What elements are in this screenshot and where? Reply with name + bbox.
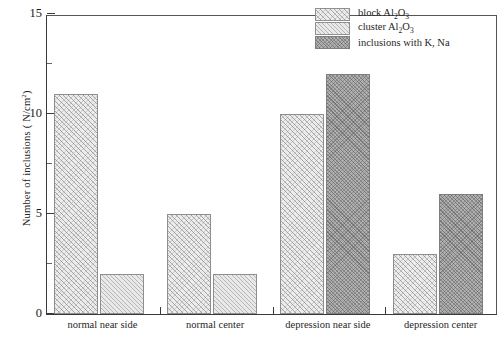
y-axis-tick-label: 15 (30, 6, 43, 21)
x-axis-category-label: depression center (404, 319, 477, 330)
x-axis-tick (160, 307, 161, 314)
x-axis-category-label: depression near side (285, 319, 370, 330)
bar (54, 94, 98, 314)
x-axis-tick (385, 307, 386, 314)
legend-item-label: cluster Al2O3 (358, 21, 414, 35)
y-axis-title: Number of inclusions ( N/cm2) (20, 38, 33, 278)
x-axis-category-label: normal near side (67, 319, 137, 330)
y-axis-title-superscript: 2 (20, 94, 28, 98)
legend-swatch-icon (315, 22, 350, 35)
chart-legend: block Al2O3cluster Al2O3inclusions with … (315, 7, 495, 49)
legend-item[interactable]: block Al2O3 (315, 7, 495, 21)
legend-item-label: inclusions with K, Na (358, 37, 450, 48)
y-axis-tick-minor (47, 263, 52, 264)
bar (213, 274, 257, 314)
y-axis-tick-label: 5 (36, 206, 42, 221)
y-axis-tick-major: 15 (47, 13, 55, 14)
y-axis-tick-minor (47, 163, 52, 164)
bar (280, 114, 324, 314)
y-axis-tick-minor (47, 63, 52, 64)
y-axis-tick-label: 0 (36, 306, 42, 321)
legend-item-label: block Al2O3 (358, 7, 409, 21)
legend-item[interactable]: inclusions with K, Na (315, 35, 495, 49)
x-axis-tick (273, 307, 274, 314)
y-axis-tick-label: 10 (30, 106, 43, 121)
bar (167, 214, 211, 314)
x-axis-category-label: normal center (186, 319, 244, 330)
bar (326, 74, 370, 314)
plot-area: 051015 (46, 15, 497, 315)
bar-chart-figure: Number of inclusions ( N/cm2) 051015 nor… (0, 0, 503, 339)
bar (439, 194, 483, 314)
legend-swatch-icon (315, 8, 350, 21)
bar (393, 254, 437, 314)
legend-swatch-icon (315, 36, 350, 49)
bar (100, 274, 144, 314)
legend-item[interactable]: cluster Al2O3 (315, 21, 495, 35)
y-axis-title-suffix: ) (21, 90, 32, 94)
